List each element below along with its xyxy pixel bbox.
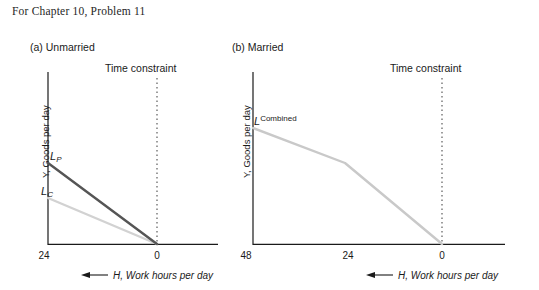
figure-root: For Chapter 10, Problem 11 (a) Unmarried… <box>0 0 539 290</box>
panel-a-direction-arrow-head <box>81 272 90 278</box>
plot-vector-layer <box>0 0 539 290</box>
panel-b-curve-combined <box>253 128 442 244</box>
panel-b-direction-arrow-head <box>366 272 375 278</box>
panel-a-curve-lp <box>48 163 157 244</box>
